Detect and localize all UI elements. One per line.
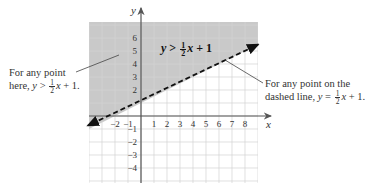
svg-text:8: 8: [243, 119, 248, 129]
svg-text:1: 1: [152, 119, 157, 129]
right-annotation: For any point on the dashed line, y = 12…: [265, 77, 365, 105]
x-axis-label: x: [265, 118, 271, 130]
svg-text:2: 2: [133, 85, 138, 95]
svg-text:2: 2: [165, 119, 170, 129]
inequality-label: y > 12x + 1: [161, 41, 212, 57]
svg-text:3: 3: [178, 119, 183, 129]
left-annotation: For any point here, y > 12x + 1.: [9, 66, 80, 94]
svg-text:6: 6: [133, 33, 138, 43]
svg-text:4: 4: [191, 119, 196, 129]
y-axis-label: y: [130, 4, 136, 16]
svg-text:−3: −3: [127, 150, 137, 160]
svg-text:−1: −1: [127, 124, 137, 134]
svg-text:−2: −2: [127, 137, 137, 147]
svg-text:6: 6: [217, 119, 222, 129]
svg-text:3: 3: [133, 72, 138, 82]
right-pointer: [225, 60, 263, 83]
svg-text:4: 4: [133, 59, 138, 69]
svg-text:−4: −4: [127, 163, 137, 173]
svg-text:7: 7: [230, 119, 235, 129]
svg-text:−2: −2: [110, 119, 120, 129]
svg-text:5: 5: [204, 119, 209, 129]
svg-text:5: 5: [133, 46, 138, 56]
